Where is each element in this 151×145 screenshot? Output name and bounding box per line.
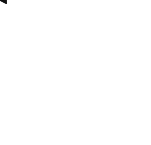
scatter-plot: [0, 0, 151, 145]
